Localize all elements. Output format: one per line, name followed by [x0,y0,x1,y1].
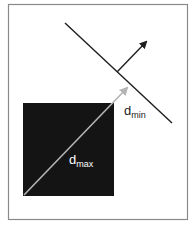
bounding-box-plane-diagram: dmin dmax [0,0,195,231]
